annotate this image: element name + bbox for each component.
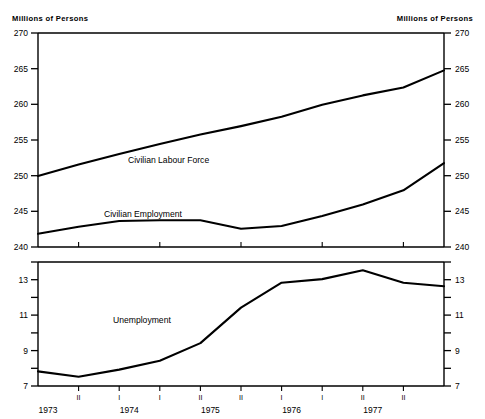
chart-canvas: Millions of Persons Millions of Persons (0, 0, 485, 419)
panel2-right-tick-labels: 13 11 9 7 (455, 275, 465, 391)
unit-header-right: Millions of Persons (397, 14, 473, 23)
panel1-right-ticks (444, 33, 451, 247)
ytick-265: 265 (14, 64, 28, 74)
ytick-7: 7 (23, 381, 28, 391)
chart-figure: Millions of Persons Millions of Persons (0, 0, 485, 419)
xtick-1974-I: I (159, 393, 161, 402)
series-unemployment (38, 270, 444, 377)
xtick-1974-II: II (239, 393, 243, 402)
series-civilian-employment (38, 163, 444, 234)
ytick-9: 9 (23, 346, 28, 356)
year-1974: 1974 (120, 405, 139, 415)
ytick-right-260: 260 (455, 99, 469, 109)
panel2-right-ticks (444, 262, 451, 386)
panel2-x-ticks (79, 386, 404, 391)
xtick-1976-I: I (118, 393, 120, 402)
xtick-1976-II: II (198, 393, 202, 402)
panel2-left-tick-labels: 13 11 9 7 (19, 275, 29, 391)
ytick-260: 260 (14, 99, 28, 109)
xtick-1977-I: I (281, 393, 283, 402)
ytick-right-250: 250 (455, 171, 469, 181)
xtick-1975-I: I (321, 393, 323, 402)
ytick-right-265: 265 (455, 64, 469, 74)
ytick-245: 245 (14, 206, 28, 216)
annotation-civilian-employment: Civilian Employment (104, 209, 182, 219)
series-civilian-labour-force (38, 70, 444, 176)
ytick-11: 11 (19, 310, 28, 320)
annotation-unemployment: Unemployment (113, 315, 171, 325)
ytick-right-245: 245 (455, 206, 469, 216)
ytick-240: 240 (14, 242, 28, 252)
ytick-right-240: 240 (455, 242, 469, 252)
ytick-255: 255 (14, 135, 28, 145)
panel-labour-force-employment: 270 265 260 255 250 245 240 270 265 260 … (14, 28, 470, 252)
panel2-left-ticks (31, 262, 38, 386)
panel1-left-tick-labels: 270 265 260 255 250 245 240 (14, 28, 28, 252)
ytick-13: 13 (19, 275, 29, 285)
ytick-right-13: 13 (455, 275, 465, 285)
ytick-right-11: 11 (455, 310, 464, 320)
year-1975: 1975 (201, 405, 220, 415)
xtick-1973-II: II (77, 393, 81, 402)
x-axis-half-labels: II I II I II I II I II (77, 393, 406, 402)
unit-header-left: Millions of Persons (12, 14, 88, 23)
ytick-right-9: 9 (455, 346, 460, 356)
ytick-270: 270 (14, 28, 28, 38)
xtick-1977-II: II (361, 393, 365, 402)
year-1976: 1976 (282, 405, 301, 415)
ytick-right-7: 7 (455, 381, 460, 391)
panel1-bottom-ticks (79, 242, 404, 247)
year-1973: 1973 (39, 405, 58, 415)
ytick-right-255: 255 (455, 135, 469, 145)
x-axis-year-labels: 1973 1974 1975 1976 1977 (39, 405, 383, 415)
panel-unemployment: 13 11 9 7 13 11 9 7 (19, 262, 465, 391)
ytick-250: 250 (14, 171, 28, 181)
ytick-right-270: 270 (455, 28, 469, 38)
year-1977: 1977 (363, 405, 382, 415)
panel1-right-tick-labels: 270 265 260 255 250 245 240 (455, 28, 469, 252)
annotation-civilian-labour-force: Civilian Labour Force (128, 155, 209, 165)
panel1-left-ticks (31, 33, 38, 247)
xtick-1975-II: II (401, 393, 405, 402)
